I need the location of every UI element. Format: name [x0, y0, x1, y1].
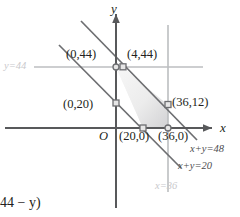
linear-programming-figure: y x O (0,44) (4,44) (0,20) (36,12) (20,0… [0, 0, 240, 217]
point-label-36-12: (36,12) [172, 96, 208, 109]
point-label-0-20: (0,20) [63, 98, 93, 111]
line-label-x-plus-y-48: x+y=48 [190, 144, 224, 155]
point-label-20-0: (20,0) [119, 130, 149, 143]
vertex-marker-4-44 [120, 64, 126, 70]
line-label-x-equals-36: x=36 [155, 181, 177, 192]
y-axis-label: y [111, 2, 117, 15]
caption-fragment: 44 − y) [0, 196, 41, 210]
origin-label: O [99, 130, 108, 143]
x-axis-arrowhead [203, 124, 212, 132]
point-label-0-44: (0,44) [66, 48, 96, 61]
point-label-4-44: (4,44) [127, 48, 157, 61]
vertex-marker-0-20 [113, 100, 119, 106]
vertex-marker-0-44 [113, 64, 119, 70]
x-axis-label: x [220, 121, 226, 134]
constraint-line-x-plus-y-48 [81, 21, 197, 140]
vertex-marker-36-12 [165, 102, 171, 108]
point-label-36-0: (36,0) [158, 130, 188, 143]
line-label-x-plus-y-20: x+y=20 [178, 161, 212, 172]
line-label-y-equals-44: y=44 [4, 61, 26, 72]
feasible-region-shading-fill [116, 67, 168, 128]
